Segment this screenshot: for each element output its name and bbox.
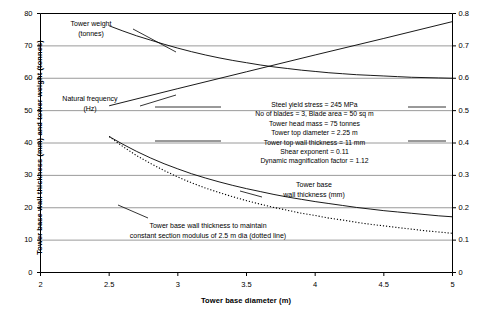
x-tick-label: 4.5 xyxy=(364,280,404,289)
y-right-tick-label: 0.5 xyxy=(459,106,489,115)
x-tick-label: 5 xyxy=(433,280,473,289)
y-left-tick-label: 30 xyxy=(7,170,33,179)
annotation-parameter-line: Tower head mass = 75 tonnes xyxy=(222,119,407,128)
y-right-tick-label: 0.8 xyxy=(459,9,489,18)
y-right-tick-label: 0.1 xyxy=(459,235,489,244)
x-axis-title: Tower base diameter (m) xyxy=(40,296,452,305)
annotation-wall-thickness: Tower base wall thickness (mm) xyxy=(266,180,362,199)
x-tick-label: 3.5 xyxy=(227,280,267,289)
annotation-tower-weight: Tower weight (tonnes) xyxy=(48,19,134,38)
leader-wall-thickness xyxy=(240,191,262,197)
annotation-parameter-line: Shear exponent = 0.11 xyxy=(222,147,407,156)
series-line xyxy=(109,26,452,78)
leader-tower-weight xyxy=(133,29,176,52)
y-left-tick-label: 50 xyxy=(7,106,33,115)
y-left-tick-label: 80 xyxy=(7,9,33,18)
annotation-constant-modulus-line2: constant section modulus of 2.5 m dia (d… xyxy=(88,231,328,241)
annotation-parameters: Steel yield stress = 245 MPaNo of blades… xyxy=(222,100,407,166)
annotation-tower-weight-line2: (tonnes) xyxy=(48,29,134,39)
y-right-tick-label: 0.2 xyxy=(459,203,489,212)
annotation-natural-frequency-line2: (Hz) xyxy=(40,104,140,114)
annotation-constant-modulus-line1: Tower base wall thickness to maintain xyxy=(88,221,328,231)
y-right-tick-label: 0.6 xyxy=(459,73,489,82)
leader-constant-modulus xyxy=(118,205,148,218)
y-right-tick-label: 0.4 xyxy=(459,138,489,147)
annotation-natural-frequency-line1: Natural frequency xyxy=(40,94,140,104)
x-tick-label: 2.5 xyxy=(89,280,129,289)
x-tick-label: 2 xyxy=(21,280,61,289)
y-right-tick-label: 0 xyxy=(459,268,489,277)
annotation-tower-weight-line1: Tower weight xyxy=(48,19,134,29)
y-left-tick-label: 60 xyxy=(7,73,33,82)
annotation-constant-modulus: Tower base wall thickness to maintain co… xyxy=(88,221,328,240)
x-tick-label: 4 xyxy=(295,280,335,289)
annotation-wall-thickness-line2: wall thickness (mm) xyxy=(266,190,362,200)
y-left-tick-label: 10 xyxy=(7,235,33,244)
series-line xyxy=(109,22,452,106)
y-left-tick-label: 70 xyxy=(7,41,33,50)
annotation-natural-frequency: Natural frequency (Hz) xyxy=(40,94,140,113)
annotation-parameter-line: Steel yield stress = 245 MPa xyxy=(222,100,407,109)
annotation-parameter-line: Dynamic magnification factor = 1.12 xyxy=(222,156,407,165)
y-right-tick-label: 0.7 xyxy=(459,41,489,50)
annotation-parameter-line: No of blades = 3, Blade area = 50 sq m xyxy=(222,109,407,118)
annotation-parameter-line: Tower top diameter = 2.25 m xyxy=(222,128,407,137)
y-left-tick-label: 0 xyxy=(7,268,33,277)
y-axis-left-title: Tower base wall thickness (mm) and tower… xyxy=(35,23,44,273)
y-left-tick-label: 40 xyxy=(7,138,33,147)
y-left-tick-label: 20 xyxy=(7,203,33,212)
x-tick-label: 3 xyxy=(158,280,198,289)
y-right-tick-label: 0.3 xyxy=(459,170,489,179)
chart-container: 0102030405060708000.10.20.30.40.50.60.70… xyxy=(0,0,495,317)
annotation-parameter-line: Tower top wall thickness = 11 mm xyxy=(222,138,407,147)
annotation-wall-thickness-line1: Tower base xyxy=(266,180,362,190)
